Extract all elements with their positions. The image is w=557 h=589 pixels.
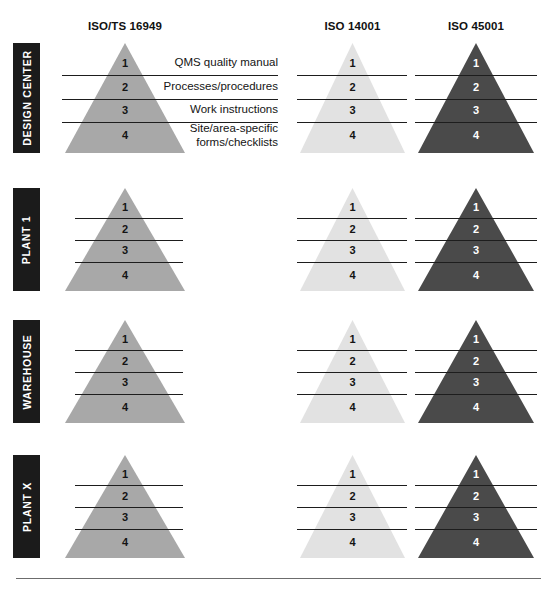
tier-number-plant-x-iso-14001-4: 4: [300, 537, 405, 548]
tier-divider-plant-x-iso-45001-1: [415, 485, 537, 486]
tier-divider-plant-1-iso-14001-3: [297, 262, 407, 263]
tier-number-warehouse-iso-ts-16949-3: 3: [65, 377, 185, 388]
tier-divider-design-center-iso-45001-3: [415, 122, 537, 123]
tier-number-warehouse-iso-45001-2: 2: [418, 356, 534, 367]
tier-divider-warehouse-iso-45001-1: [415, 350, 537, 351]
tier-number-warehouse-iso-14001-1: 1: [300, 334, 405, 345]
tier-description-2: Processes/procedures: [150, 80, 278, 94]
tier-number-design-center-iso-45001-4: 4: [418, 130, 534, 141]
tier-number-plant-1-iso-45001-4: 4: [418, 270, 534, 281]
tier-number-design-center-iso-14001-4: 4: [300, 130, 405, 141]
tier-number-design-center-iso-14001-3: 3: [300, 105, 405, 116]
tier-number-plant-1-iso-14001-3: 3: [300, 245, 405, 256]
tier-number-warehouse-iso-45001-4: 4: [418, 402, 534, 413]
tier-divider-warehouse-iso-ts-16949-3: [75, 394, 183, 395]
tier-divider-plant-1-iso-45001-1: [415, 218, 537, 219]
tier-divider-plant-x-iso-45001-3: [415, 529, 537, 530]
tier-number-plant-1-iso-45001-3: 3: [418, 245, 534, 256]
tier-divider-warehouse-iso-14001-3: [297, 394, 407, 395]
tier-divider-plant-x-iso-ts-16949-2: [75, 507, 183, 508]
tier-number-plant-1-iso-14001-2: 2: [300, 224, 405, 235]
tier-divider-plant-x-iso-14001-1: [297, 485, 407, 486]
tier-number-plant-x-iso-ts-16949-2: 2: [65, 491, 185, 502]
column-header-iso-14001: ISO 14001: [300, 20, 405, 32]
tier-divider-warehouse-iso-ts-16949-1: [75, 350, 183, 351]
row-label-chip-warehouse: WAREHOUSE: [13, 320, 40, 423]
tier-divider-plant-1-iso-ts-16949-2: [75, 240, 183, 241]
tier-description-4: Site/area-specific forms/checklists: [150, 122, 278, 149]
tier-number-plant-1-iso-45001-2: 2: [418, 224, 534, 235]
tier-number-warehouse-iso-14001-2: 2: [300, 356, 405, 367]
tier-divider-plant-1-iso-ts-16949-3: [75, 262, 183, 263]
tier-description-1: QMS quality manual: [150, 56, 278, 70]
tier-number-design-center-iso-14001-1: 1: [300, 58, 405, 69]
site-row-plant-x: PLANT X123412341234: [0, 455, 557, 558]
tier-divider-plant-x-iso-ts-16949-1: [75, 485, 183, 486]
row-label-text-design-center: DESIGN CENTER: [21, 50, 33, 145]
row-label-chip-design-center: DESIGN CENTER: [13, 43, 40, 153]
tier-number-warehouse-iso-ts-16949-4: 4: [65, 402, 185, 413]
row-label-text-plant-x: PLANT X: [21, 482, 33, 532]
tier-number-plant-x-iso-45001-2: 2: [418, 491, 534, 502]
tier-divider-design-center-iso-14001-1: [297, 75, 407, 76]
tier-divider-design-center-iso-45001-1: [415, 75, 537, 76]
iso-documentation-pyramid-diagram: ISO/TS 16949ISO 14001ISO 45001DESIGN CEN…: [0, 0, 557, 589]
tier-divider-plant-1-iso-ts-16949-1: [75, 218, 183, 219]
tier-number-design-center-iso-14001-2: 2: [300, 82, 405, 93]
tier-number-plant-1-iso-45001-1: 1: [418, 202, 534, 213]
tier-divider-plant-x-iso-14001-2: [297, 507, 407, 508]
tier-divider-warehouse-iso-14001-2: [297, 372, 407, 373]
tier-divider-plant-x-iso-14001-3: [297, 529, 407, 530]
row-label-text-warehouse: WAREHOUSE: [21, 334, 33, 409]
tier-divider-warehouse-iso-ts-16949-2: [75, 372, 183, 373]
column-header-iso-45001: ISO 45001: [418, 20, 534, 32]
tier-divider-design-center-iso-45001-2: [415, 99, 537, 100]
tier-number-design-center-iso-45001-3: 3: [418, 105, 534, 116]
site-row-design-center: DESIGN CENTER123412341234QMS quality man…: [0, 43, 557, 153]
tier-number-warehouse-iso-45001-1: 1: [418, 334, 534, 345]
footer-rule: [16, 578, 541, 579]
tier-number-plant-x-iso-14001-1: 1: [300, 469, 405, 480]
tier-number-warehouse-iso-ts-16949-1: 1: [65, 334, 185, 345]
tier-divider-warehouse-iso-14001-1: [297, 350, 407, 351]
tier-divider-design-center-iso-14001-3: [297, 122, 407, 123]
tier-number-warehouse-iso-ts-16949-2: 2: [65, 356, 185, 367]
tier-number-plant-x-iso-14001-3: 3: [300, 512, 405, 523]
tier-number-plant-x-iso-ts-16949-1: 1: [65, 469, 185, 480]
tier-divider-plant-x-iso-ts-16949-3: [75, 529, 183, 530]
tier-divider-plant-1-iso-14001-2: [297, 240, 407, 241]
row-label-chip-plant-1: PLANT 1: [13, 188, 40, 291]
tier-number-plant-x-iso-ts-16949-4: 4: [65, 537, 185, 548]
row-label-chip-plant-x: PLANT X: [13, 455, 40, 558]
tier-number-plant-x-iso-45001-1: 1: [418, 469, 534, 480]
tier-number-plant-1-iso-ts-16949-1: 1: [65, 202, 185, 213]
tier-number-plant-x-iso-45001-4: 4: [418, 537, 534, 548]
tier-divider-design-center-iso-14001-2: [297, 99, 407, 100]
footer-caption-clipped: [16, 583, 416, 589]
tier-divider-plant-1-iso-45001-2: [415, 240, 537, 241]
tier-number-plant-x-iso-ts-16949-3: 3: [65, 512, 185, 523]
tier-number-plant-1-iso-14001-1: 1: [300, 202, 405, 213]
tier-divider-warehouse-iso-45001-2: [415, 372, 537, 373]
column-header-iso-ts-16949: ISO/TS 16949: [65, 20, 185, 32]
tier-number-plant-1-iso-ts-16949-2: 2: [65, 224, 185, 235]
tier-divider-plant-1-iso-45001-3: [415, 262, 537, 263]
tier-number-plant-x-iso-45001-3: 3: [418, 512, 534, 523]
tier-number-design-center-iso-45001-2: 2: [418, 82, 534, 93]
tier-divider-plant-x-iso-45001-2: [415, 507, 537, 508]
tier-number-warehouse-iso-14001-4: 4: [300, 402, 405, 413]
tier-number-warehouse-iso-14001-3: 3: [300, 377, 405, 388]
tier-number-plant-1-iso-ts-16949-3: 3: [65, 245, 185, 256]
tier-number-warehouse-iso-45001-3: 3: [418, 377, 534, 388]
row-label-text-plant-1: PLANT 1: [21, 215, 33, 264]
tier-divider-warehouse-iso-45001-3: [415, 394, 537, 395]
tier-number-plant-1-iso-ts-16949-4: 4: [65, 270, 185, 281]
site-row-plant-1: PLANT 1123412341234: [0, 188, 557, 291]
tier-number-design-center-iso-45001-1: 1: [418, 58, 534, 69]
tier-divider-design-center-iso-ts-16949-1: [62, 75, 278, 76]
tier-description-3: Work instructions: [150, 103, 278, 117]
tier-divider-design-center-iso-ts-16949-2: [62, 99, 278, 100]
site-row-warehouse: WAREHOUSE123412341234: [0, 320, 557, 423]
tier-number-plant-x-iso-14001-2: 2: [300, 491, 405, 502]
tier-divider-plant-1-iso-14001-1: [297, 218, 407, 219]
